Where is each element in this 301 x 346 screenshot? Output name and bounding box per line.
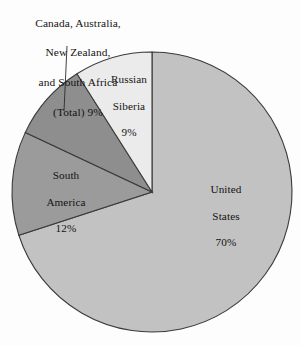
slice-label-united-states-value: 70% bbox=[190, 236, 262, 249]
slice-label-canada-line2: New Zealand, bbox=[2, 45, 154, 60]
slice-label-united-states-line1: United bbox=[190, 183, 262, 196]
pie-chart: Canada, Australia, New Zealand, and Sout… bbox=[0, 0, 301, 346]
slice-label-russian-siberia: Russian Siberia 9% bbox=[96, 60, 162, 153]
slice-label-russia-line1: Russian bbox=[96, 73, 162, 86]
slice-label-south-america-line1: South bbox=[28, 169, 104, 182]
slice-label-united-states-line2: States bbox=[190, 210, 262, 223]
slice-label-canada-line1: Canada, Australia, bbox=[2, 16, 154, 31]
slice-label-south-america-line2: America bbox=[28, 196, 104, 209]
slice-label-south-america: South America 12% bbox=[28, 156, 104, 249]
slice-label-united-states: United States 70% bbox=[190, 170, 262, 263]
slice-label-south-america-value: 12% bbox=[28, 222, 104, 235]
slice-label-russia-line2: Siberia bbox=[96, 100, 162, 113]
slice-label-russia-value: 9% bbox=[96, 126, 162, 139]
